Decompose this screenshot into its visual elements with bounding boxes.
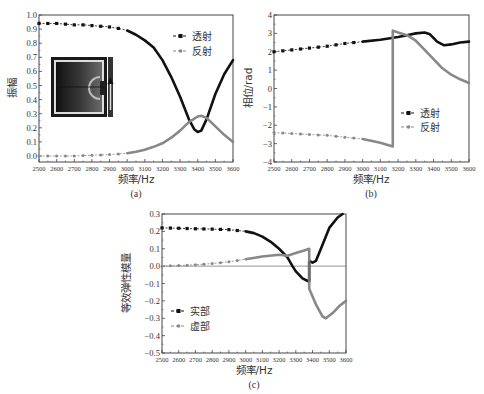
y-tick-label: 0 [268,84,272,94]
x-tick-label: 3600 [227,165,240,172]
y-tick-label: 0.6 [26,66,37,76]
figure: 0.00.10.20.30.40.50.60.70.80.91.02500260… [0,0,484,394]
legend-transmission: 透射 [420,108,440,119]
legend-transmission: 透射 [192,31,212,42]
axes: −0.5−0.4−0.3−0.2−0.10.00.10.20.325002600… [145,209,353,363]
x-tick-label: 3000 [239,356,252,363]
x-tick-label: 3000 [121,165,134,172]
legend-reflection: 反射 [420,122,440,133]
x-tick-label: 3000 [356,165,369,172]
y-tick-label: 0.8 [26,38,37,48]
y-tick-label: 0.3 [149,209,160,219]
panel-caption: (b) [365,188,377,200]
y-tick-label: 0.0 [26,151,37,161]
legend: 实部 虚部 [171,305,210,332]
y-axis-label: 等效弹性模量 [120,252,132,313]
inset-field-image [51,57,114,117]
y-tick-label: 2 [268,47,272,57]
x-tick-label: 3300 [289,356,302,363]
x-tick-label: 3400 [427,165,440,172]
y-tick-label: 0.3 [26,109,37,119]
x-tick-label: 3300 [174,165,187,172]
x-tick-label: 2700 [303,165,316,172]
x-tick-label: 2800 [321,165,334,172]
y-axis-label: 相位/rad [242,68,254,109]
x-axis-label: 频率/Hz [353,173,390,185]
x-tick-label: 3500 [445,165,458,172]
y-tick-label: −0.4 [145,331,161,341]
series-line [127,31,233,133]
y-tick-label: −2 [263,120,272,130]
y-tick-label: −0.1 [145,279,160,289]
panel-b-phase-chart: −4−3−2−101234250026002700280029003000310… [242,10,476,200]
series-line [363,32,469,45]
y-tick-label: 3 [268,28,272,38]
x-tick-label: 2500 [268,165,281,172]
x-tick-label: 3400 [306,356,319,363]
axes: −4−3−2−101234250026002700280029003000310… [263,10,476,172]
x-tick-label: 3100 [256,356,269,363]
x-tick-label: 2800 [85,165,98,172]
y-tick-label: 1 [268,65,272,75]
x-tick-label: 2500 [156,356,169,363]
panel-a-amplitude-chart: 0.00.10.20.30.40.50.60.70.80.91.02500260… [6,10,240,200]
x-tick-label: 2500 [33,165,46,172]
x-tick-label: 3100 [374,165,387,172]
panel-caption: (a) [130,188,141,200]
x-tick-label: 3200 [392,165,405,172]
x-tick-label: 3500 [323,356,336,363]
x-tick-label: 3600 [340,356,353,363]
x-tick-label: 2600 [50,165,63,172]
x-tick-label: 3200 [273,356,286,363]
y-tick-label: −1 [263,102,272,112]
y-tick-label: 0.5 [26,81,37,91]
series-line [246,249,346,319]
panel-caption: (c) [248,379,259,391]
x-tick-label: 3400 [191,165,204,172]
x-tick-label: 3500 [209,165,222,172]
y-tick-label: 0.9 [26,24,37,34]
y-tick-label: 0.2 [149,226,160,236]
legend: 透射 反射 [401,108,440,133]
series-line [363,31,469,147]
y-axis-label: 振幅 [6,78,18,98]
legend-imaginary-part: 虚部 [190,320,210,332]
y-tick-label: 0.0 [149,261,160,271]
legend: 透射 反射 [173,31,212,57]
y-tick-label: 0.7 [26,52,37,62]
x-tick-label: 2600 [172,356,185,363]
series-line [246,214,343,282]
y-tick-label: −0.2 [145,296,160,306]
y-tick-label: 4 [268,10,273,20]
y-tick-label: 0.2 [26,123,37,133]
y-tick-label: 1.0 [26,10,37,20]
x-tick-label: 3100 [138,165,151,172]
x-tick-label: 2600 [285,165,298,172]
y-tick-label: 0.4 [26,95,37,105]
series-line [127,116,233,153]
panel-c-modulus-chart: −0.5−0.4−0.3−0.2−0.10.00.10.20.325002600… [120,209,353,391]
x-tick-label: 2800 [206,356,219,363]
x-tick-label: 2900 [103,165,116,172]
x-tick-label: 3600 [463,165,476,172]
y-tick-label: −3 [263,139,272,149]
x-axis-label: 频率/Hz [118,173,155,185]
y-tick-label: 0.1 [149,244,160,254]
x-tick-label: 2900 [222,356,235,363]
plot-frame [162,214,346,353]
y-tick-label: 0.1 [26,137,37,147]
legend-reflection: 反射 [192,46,212,57]
x-tick-label: 2700 [189,356,202,363]
x-tick-label: 2700 [68,165,81,172]
x-tick-label: 3300 [409,165,422,172]
x-tick-label: 3200 [156,165,169,172]
legend-real-part: 实部 [190,305,210,317]
y-tick-label: −0.3 [145,313,160,323]
x-tick-label: 2900 [338,165,351,172]
x-axis-label: 频率/Hz [236,364,273,376]
